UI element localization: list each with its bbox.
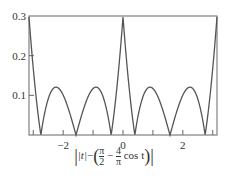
xlabel-abs-t: |t| bbox=[78, 149, 87, 161]
data-curve bbox=[29, 17, 217, 135]
y-tick-label: 0.3 bbox=[12, 10, 26, 22]
y-tick-label: 0.1 bbox=[12, 89, 26, 101]
plot-frame bbox=[29, 16, 217, 135]
x-axis-label: ||t|−(π2 − 4π cos t)| bbox=[0, 146, 228, 167]
xlabel-cos: cos t bbox=[124, 149, 144, 161]
frac-den-2: 2 bbox=[99, 157, 104, 167]
y-axis-ticks: 0.10.20.3 bbox=[12, 10, 34, 101]
y-tick-label: 0.2 bbox=[12, 50, 26, 62]
xlabel-minus-2: − bbox=[107, 149, 113, 161]
frac-den-pi: π bbox=[116, 157, 121, 167]
